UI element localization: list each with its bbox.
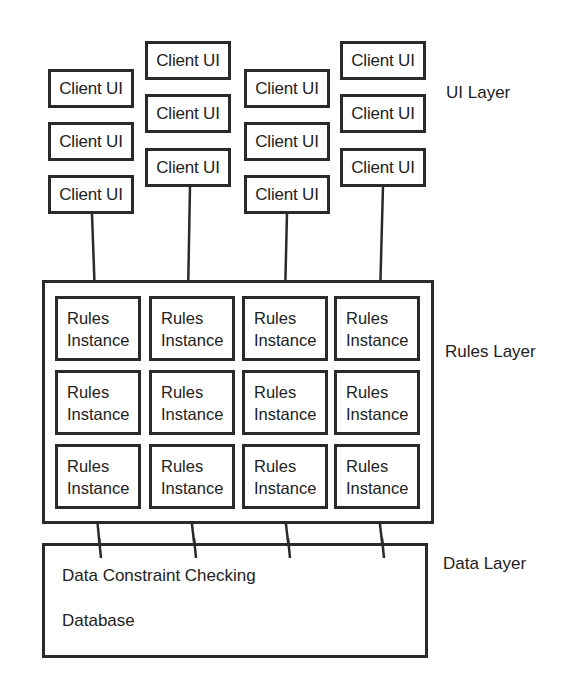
data-layer-label: Data Layer [443,554,526,574]
architecture-diagram: Client UI Client UI Client UI Client UI … [0,0,567,690]
connector-lines-overlay [0,0,567,690]
